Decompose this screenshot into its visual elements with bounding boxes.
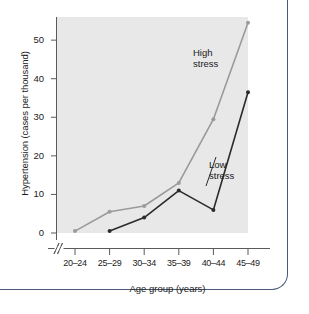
annotation-low-stress: Low stress — [209, 159, 234, 181]
data-point-low-stress — [108, 229, 112, 233]
data-point-high-stress — [73, 229, 77, 233]
data-point-low-stress — [142, 216, 146, 220]
data-point-low-stress — [211, 208, 215, 212]
data-point-high-stress — [246, 21, 250, 25]
data-point-low-stress — [177, 189, 181, 193]
annotation-high-stress-line1: High — [193, 47, 218, 58]
y-tick-label-0: 0 — [22, 227, 44, 238]
y-tick-label-40: 40 — [22, 73, 44, 84]
x-tick-label-45-49: 45–49 — [228, 258, 268, 268]
data-point-low-stress — [246, 90, 250, 94]
annotation-low-stress-line2: stress — [209, 170, 234, 181]
chart-page: Hypertension (cases per thousand) Age gr… — [0, 0, 309, 314]
data-point-high-stress — [108, 210, 112, 214]
data-point-high-stress — [211, 117, 215, 121]
hypertension-line-chart: Hypertension (cases per thousand) Age gr… — [0, 0, 309, 314]
y-tick-label-50: 50 — [22, 34, 44, 45]
y-tick-label-10: 10 — [22, 188, 44, 199]
data-point-high-stress — [142, 204, 146, 208]
annotation-high-stress: High stress — [193, 47, 218, 69]
x-axis-ticks — [75, 249, 248, 255]
axis-break-icon — [54, 243, 64, 254]
annotation-high-stress-line2: stress — [193, 58, 218, 69]
y-tick-label-20: 20 — [22, 150, 44, 161]
data-point-high-stress — [177, 181, 181, 185]
y-tick-label-30: 30 — [22, 111, 44, 122]
x-axis-label: Age group (years) — [60, 283, 275, 294]
annotation-low-stress-line1: Low — [209, 159, 234, 170]
